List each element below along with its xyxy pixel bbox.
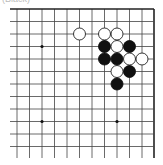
black-stone[interactable] xyxy=(124,41,136,53)
black-stone[interactable] xyxy=(99,53,111,65)
white-stone[interactable] xyxy=(99,28,111,40)
go-board[interactable] xyxy=(0,0,163,165)
black-stone[interactable] xyxy=(124,66,136,78)
white-stone[interactable] xyxy=(136,53,148,65)
white-stone[interactable] xyxy=(111,41,123,53)
black-stone[interactable] xyxy=(111,78,123,90)
star-point xyxy=(40,45,43,48)
star-point xyxy=(115,120,118,123)
star-point xyxy=(40,120,43,123)
black-stone[interactable] xyxy=(99,41,111,53)
white-stone[interactable] xyxy=(74,28,86,40)
white-stone[interactable] xyxy=(111,28,123,40)
white-stone[interactable] xyxy=(111,66,123,78)
black-stone[interactable] xyxy=(111,53,123,65)
white-stone[interactable] xyxy=(124,53,136,65)
